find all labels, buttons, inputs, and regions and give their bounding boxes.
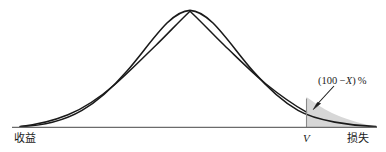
axis-label-loss: 损失 [347,133,369,144]
threshold-marker-label: V [303,133,310,144]
annotation-suffix: ) % [352,75,366,86]
axis-label-gain: 收益 [14,133,36,144]
annotation-prefix: (100 − [318,75,346,86]
tail-percentage-annotation: (100 −X) % [318,76,367,87]
normal-distribution-figure: (100 −X) % 收益 V 损失 [0,0,386,152]
bell-curve-path [21,11,307,126]
annotation-arrow-line [317,86,335,105]
